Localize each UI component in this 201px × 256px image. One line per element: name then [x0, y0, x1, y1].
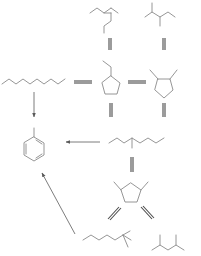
equilibrium-arrow-ethylcyclopentane-3-methylhexane	[110, 103, 112, 117]
molecule-1-2-dimethylcyclopentane	[150, 70, 177, 98]
molecule-ethylcyclopentane	[102, 61, 120, 94]
molecule-toluene	[24, 128, 44, 161]
equilibrium-arrow-1-3-dimethylcyclopentane-2-4-dimethylpentane	[141, 206, 154, 219]
molecule-2-3-dimethylpentane	[145, 3, 175, 26]
equilibrium-arrow-1-3-dimethylcyclopentane-2-methylhexane	[108, 207, 121, 220]
equilibrium-arrow-ethylcyclopentane-1-2-dimethylcyclopentane	[128, 81, 146, 83]
equilibrium-arrow-2-3-dimethylpentane-1-2-dimethylcyclopentane	[163, 38, 165, 50]
molecule-3-methylhexane	[109, 138, 164, 148]
molecule-1-3-dimethylcyclopentane	[114, 182, 148, 202]
molecule-2-methylhexane	[83, 231, 131, 247]
equilibrium-arrow-3-methylhexane-1-3-dimethylcyclopentane	[131, 157, 133, 172]
arrow-2-methylhexane-toluene	[42, 173, 75, 234]
molecule-2-4-dimethylpentane	[152, 235, 184, 250]
molecule-n-heptane	[2, 79, 65, 84]
equilibrium-arrow-1-2-dimethylcyclopentane-3-methylhexane	[163, 103, 165, 117]
equilibrium-arrow-3-ethylpentane-ethylcyclopentane	[109, 38, 111, 50]
reaction-network-diagram	[0, 0, 201, 256]
equilibrium-arrow-n-heptane-ethylcyclopentane	[74, 81, 92, 83]
molecule-3-ethylpentane	[90, 8, 118, 33]
